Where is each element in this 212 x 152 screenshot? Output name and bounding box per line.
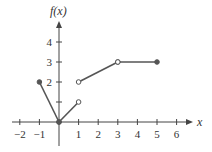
open-dot-icon [116, 60, 121, 65]
x-tick-label: 2 [95, 128, 101, 140]
tick-labels: −2−1123456234 [14, 36, 180, 140]
y-axis-arrow-icon [56, 21, 62, 28]
y-tick-label: 4 [47, 36, 53, 48]
y-tick-label: 2 [47, 76, 53, 88]
series-segment [79, 62, 118, 82]
open-dot-icon [76, 80, 81, 85]
function-series [39, 62, 157, 122]
x-tick-label: −1 [34, 128, 46, 140]
closed-dot-icon [37, 80, 42, 85]
y-axis-label: f(x) [50, 4, 67, 18]
x-tick-label: 3 [115, 128, 121, 140]
y-tick-label: 3 [47, 56, 53, 68]
x-tick-label: 4 [135, 128, 141, 140]
x-axis-arrow-icon [186, 119, 193, 125]
axis-ticks [20, 42, 177, 125]
x-axis-label: x [196, 115, 203, 129]
closed-dot-icon [155, 60, 160, 65]
open-dot-icon [76, 100, 81, 105]
x-tick-label: −2 [14, 128, 26, 140]
x-tick-label: 1 [76, 128, 82, 140]
x-tick-label: 6 [174, 128, 180, 140]
closed-dot-icon [57, 120, 62, 125]
series-segment [59, 102, 79, 122]
piecewise-function-plot: −2−1123456234 f(x) x [0, 0, 212, 152]
x-tick-label: 5 [154, 128, 160, 140]
